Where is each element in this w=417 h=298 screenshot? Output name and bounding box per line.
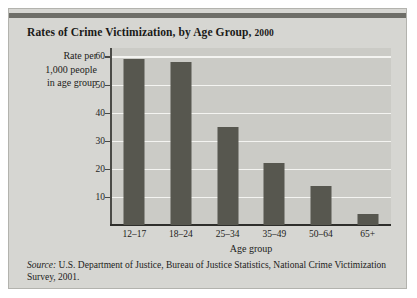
y-axis-tick-mark [105,85,110,87]
bar-slot [204,48,251,225]
y-axis-tick-mark [105,141,110,143]
x-axis-tick-label: 50–64 [298,229,345,239]
x-axis-tick-labels: 12–1718–2425–3435–4950–6465+ [111,229,391,243]
bar [124,59,145,225]
bar [170,62,191,225]
y-axis-tick-label: 30 [71,136,105,146]
y-axis-tick-label: 60 [71,51,105,61]
x-axis-tick-label: 12–17 [111,229,158,239]
y-axis-tick-label: 50 [71,80,105,90]
x-axis-tick-label: 18–24 [158,229,205,239]
bar [264,163,285,225]
bar-slot [111,48,158,225]
y-axis-tick-mark [105,113,110,115]
bar-slot [158,48,205,225]
x-axis-tick-label: 65+ [344,229,391,239]
x-axis-tick-label: 25–34 [204,229,251,239]
x-axis-tick-label: 35–49 [251,229,298,239]
y-axis-tick-label: 10 [71,192,105,202]
bar [217,127,238,225]
bar-slot [344,48,391,225]
y-axis-tick-labels: 102030405060 [65,48,105,225]
bar [357,214,378,225]
y-axis-tick-mark [105,169,110,171]
source-text: U.S. Department of Justice, Bureau of Ju… [27,260,386,282]
bar-series [111,48,391,225]
y-axis-tick-label: 40 [71,108,105,118]
y-axis-tick-mark [105,197,110,199]
plot-wrapper: Rate per 1,000 people in age group 10203… [9,9,408,290]
bar-slot [298,48,345,225]
y-axis-tick-label: 20 [71,164,105,174]
bar-slot [251,48,298,225]
source-label: Source: [27,260,56,270]
x-axis-label: Age group [111,243,391,254]
y-axis-tick-mark [105,56,110,58]
bar [310,186,331,225]
figure-panel: Rates of Crime Victimization, by Age Gro… [8,8,407,289]
source-note: Source: U.S. Department of Justice, Bure… [27,259,387,283]
